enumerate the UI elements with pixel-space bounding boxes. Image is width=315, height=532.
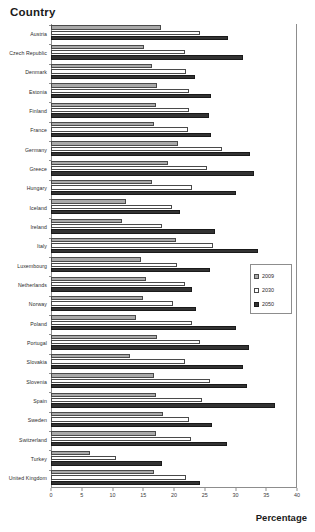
chart-row: Germany (51, 140, 297, 159)
legend-swatch-icon (254, 274, 259, 279)
legend-swatch-icon (254, 288, 259, 293)
category-label: Slovakia (27, 359, 47, 365)
chart-row: Iceland (51, 198, 297, 217)
category-label: Switzerland (19, 437, 47, 443)
bar-2050 (51, 75, 195, 79)
x-tick (112, 488, 113, 491)
bar-2050 (51, 133, 211, 137)
bar-2030 (51, 224, 162, 228)
category-label: Poland (30, 321, 47, 327)
x-tick-label: 25 (202, 492, 208, 498)
bar-2009 (51, 83, 157, 87)
bar-2030 (51, 437, 191, 441)
bar-2030 (51, 243, 213, 247)
bar-2009 (51, 238, 176, 242)
bar-2050 (51, 365, 243, 369)
category-label: France (30, 127, 47, 133)
legend-label: 2009 (262, 273, 274, 279)
legend-label: 2050 (262, 301, 274, 307)
chart-row: Slovenia (51, 372, 297, 391)
bar-2009 (51, 335, 157, 339)
bar-2009 (51, 219, 122, 223)
category-label: Portugal (27, 340, 47, 346)
bar-2050 (51, 287, 192, 291)
chart-legend: 200920302050 (250, 264, 292, 314)
bar-2050 (51, 481, 200, 485)
bar-2009 (51, 296, 143, 300)
bar-2009 (51, 354, 130, 358)
chart-row: Estonia (51, 82, 297, 101)
category-label: Slovenia (26, 379, 47, 385)
bar-2030 (51, 456, 116, 460)
legend-swatch-icon (254, 302, 259, 307)
bar-2050 (51, 94, 211, 98)
bar-2009 (51, 373, 154, 377)
bar-2030 (51, 282, 185, 286)
chart-page: Country AustriaCzech RepublicDenmarkEsto… (0, 0, 315, 532)
bar-2050 (51, 442, 227, 446)
x-tick (143, 488, 144, 491)
chart-row: Sweden (51, 411, 297, 430)
x-tick-label: 5 (80, 492, 83, 498)
bar-2050 (51, 191, 236, 195)
category-label: Norway (29, 301, 47, 307)
category-label: Germany (25, 147, 47, 153)
x-tick-label: 40 (294, 492, 300, 498)
category-label: United Kingdom (9, 475, 47, 481)
legend-label: 2030 (262, 287, 274, 293)
chart-row: France (51, 121, 297, 140)
category-label: Luxembourg (17, 263, 47, 269)
chart-row: Denmark (51, 63, 297, 82)
bar-2050 (51, 171, 254, 175)
x-tick-label: 20 (171, 492, 177, 498)
legend-item-2050[interactable]: 2050 (254, 297, 288, 311)
bar-2030 (51, 127, 188, 131)
bar-2009 (51, 180, 152, 184)
chart-row: Portugal (51, 333, 297, 352)
legend-item-2009[interactable]: 2009 (254, 269, 288, 283)
bar-2030 (51, 185, 192, 189)
chart-row: Italy (51, 237, 297, 256)
bar-2009 (51, 103, 156, 107)
category-label: Spain (33, 398, 47, 404)
chart-row: Poland (51, 314, 297, 333)
x-tick-label: 35 (263, 492, 269, 498)
page-title: Country (10, 6, 55, 18)
bar-2009 (51, 451, 90, 455)
category-label: Finland (29, 108, 47, 114)
bar-2050 (51, 326, 236, 330)
chart-row: United Kingdom (51, 469, 297, 488)
x-tick (174, 488, 175, 491)
x-tick (204, 488, 205, 491)
bar-2030 (51, 147, 222, 151)
chart-row: Ireland (51, 217, 297, 236)
bar-2050 (51, 152, 250, 156)
bar-2030 (51, 205, 172, 209)
bar-2009 (51, 141, 178, 145)
category-label: Italy (37, 243, 47, 249)
x-tick (235, 488, 236, 491)
bar-2030 (51, 89, 189, 93)
legend-item-2030[interactable]: 2030 (254, 283, 288, 297)
category-label: Sweden (28, 417, 47, 423)
bar-2009 (51, 25, 161, 29)
bar-2030 (51, 31, 200, 35)
bar-2030 (51, 321, 192, 325)
x-tick (51, 488, 52, 491)
bar-2009 (51, 161, 168, 165)
bar-2009 (51, 199, 126, 203)
bar-2030 (51, 301, 173, 305)
bar-2009 (51, 393, 156, 397)
chart-row: Austria (51, 24, 297, 43)
bar-2009 (51, 122, 154, 126)
bar-2009 (51, 315, 136, 319)
bar-2050 (51, 268, 210, 272)
bar-2009 (51, 45, 144, 49)
bar-2030 (51, 475, 186, 479)
bar-2030 (51, 69, 186, 73)
bar-2050 (51, 461, 162, 465)
bar-2050 (51, 345, 249, 349)
bar-2030 (51, 340, 200, 344)
bar-2050 (51, 36, 228, 40)
chart-row: Finland (51, 101, 297, 120)
